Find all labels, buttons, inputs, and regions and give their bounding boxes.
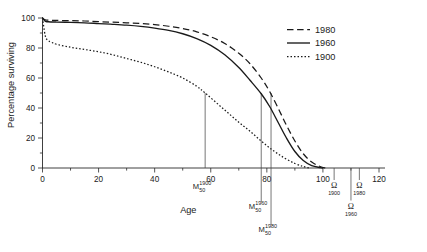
y-tick-label: 80 <box>26 44 36 53</box>
x-axis-title: Age <box>180 205 196 215</box>
y-tick-label: 20 <box>26 134 36 143</box>
y-tick-label: 0 <box>30 164 35 173</box>
x-tick-label: 40 <box>150 175 160 184</box>
annotation-base-median-1900: M <box>193 182 199 191</box>
annotation-superscript-median-1960: 1960 <box>255 200 267 206</box>
legend-label-1900: 1900 <box>315 52 335 62</box>
annotation-subscript-omega-1960: 1960 <box>345 211 357 217</box>
annotation-superscript-median-1900: 1900 <box>199 180 211 186</box>
x-tick-label: 0 <box>40 175 45 184</box>
annotation-base-omega-1960: Ω <box>348 202 354 211</box>
x-tick-label: 120 <box>372 175 386 184</box>
x-tick-label: 80 <box>262 175 272 184</box>
annotation-base-omega-1980: Ω <box>356 181 362 190</box>
legend-label-1960: 1960 <box>315 38 335 48</box>
annotation-base-median-1980: M <box>259 225 265 234</box>
y-tick-label: 60 <box>26 74 36 83</box>
annotation-subscript-median-1980: 50 <box>265 230 271 236</box>
y-tick-label: 40 <box>26 104 36 113</box>
annotation-subscript-median-1960: 50 <box>255 207 261 213</box>
y-axis-title: Percentage surviving <box>6 42 16 128</box>
x-tick-label: 100 <box>316 175 330 184</box>
annotation-subscript-median-1900: 50 <box>199 187 205 193</box>
annotation-superscript-median-1980: 1980 <box>265 223 277 229</box>
legend-label-1980: 1980 <box>315 25 335 35</box>
annotation-subscript-omega-1980: 1980 <box>353 190 365 196</box>
annotation-base-median-1960: M <box>249 202 255 211</box>
survival-curve-figure: 020406080100120 020406080100 Age Percent… <box>0 0 427 252</box>
annotation-base-omega-1900: Ω <box>331 181 337 190</box>
y-tick-label: 100 <box>21 14 35 23</box>
chart-svg: 020406080100120 020406080100 Age Percent… <box>0 0 427 252</box>
x-tick-label: 20 <box>94 175 104 184</box>
annotation-subscript-omega-1900: 1900 <box>328 190 340 196</box>
